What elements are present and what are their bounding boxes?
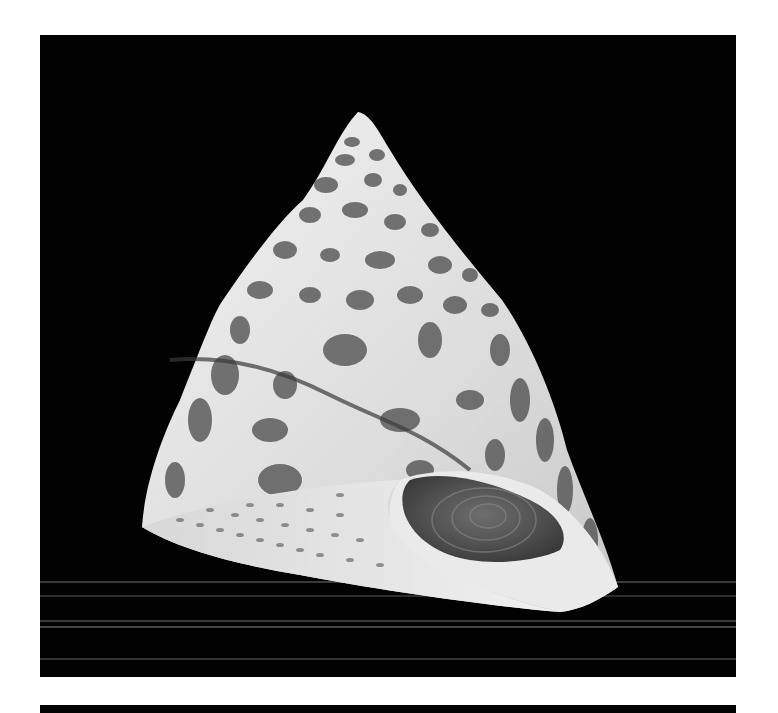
bottom-bar [40,705,736,713]
shell-photo [40,35,736,677]
shell-illustration [40,35,736,677]
